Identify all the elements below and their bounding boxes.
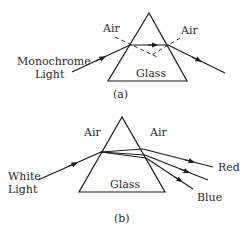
caption-a: (a) (113, 88, 128, 101)
diagram-a: Air Air Monochrome Light Glass (a) (17, 13, 225, 101)
diagram-canvas: Air Air Monochrome Light Glass (a) Air A… (0, 0, 247, 236)
label-input-b-2: Light (8, 183, 38, 196)
diagram-b: Air Air White Light Glass Red Blue (b) (8, 117, 240, 225)
caption-b: (b) (114, 212, 130, 225)
normal-left-a (115, 37, 157, 57)
label-air-right-a: Air (180, 24, 198, 37)
internal-ray-red (101, 149, 143, 152)
label-glass-b: Glass (110, 178, 141, 191)
label-glass-a: Glass (136, 67, 167, 80)
prism-diagram: Air Air Monochrome Light Glass (a) Air A… (0, 0, 247, 236)
label-red: Red (218, 161, 240, 174)
label-air-left-a: Air (102, 22, 120, 35)
label-input-a-1: Monochrome (17, 55, 91, 68)
label-input-b-1: White (8, 170, 41, 183)
label-input-a-2: Light (35, 68, 65, 81)
label-air-right-b: Air (149, 126, 167, 139)
label-air-left-b: Air (83, 126, 101, 139)
label-blue: Blue (197, 191, 222, 204)
emergent-ray-mid (145, 155, 208, 180)
emergent-ray-blue (146, 158, 193, 189)
